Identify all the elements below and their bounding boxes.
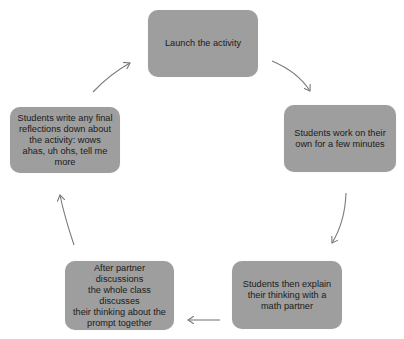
node-label: After partner discussions the whole clas…	[71, 263, 168, 329]
node-final-reflections: Students write any final reflections dow…	[10, 107, 120, 173]
node-explain-partner: Students then explain their thinking wit…	[232, 261, 342, 329]
arrow-launch-to-work-alone-icon	[272, 61, 310, 91]
node-label: Students then explain their thinking wit…	[243, 279, 331, 312]
node-label: Launch the activity	[165, 38, 241, 49]
node-label: Students work on their own for a few min…	[294, 128, 385, 150]
node-class-discussion: After partner discussions the whole clas…	[65, 261, 174, 330]
cycle-diagram: Launch the activity Students work on the…	[0, 0, 404, 339]
arrow-reflections-to-launch-icon	[93, 63, 130, 92]
node-label: Students write any final reflections dow…	[18, 113, 113, 168]
node-launch-activity: Launch the activity	[148, 10, 258, 77]
arrow-class-discussion-to-reflections-icon	[60, 195, 74, 245]
node-work-alone: Students work on their own for a few min…	[284, 105, 396, 172]
arrow-work-alone-to-explain-partner-icon	[332, 193, 346, 243]
